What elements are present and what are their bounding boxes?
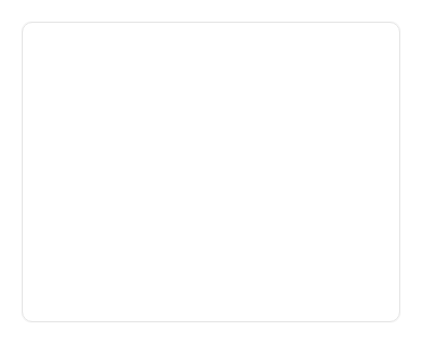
figure-card	[22, 22, 400, 322]
coordinate-plane-figure: -3 -2 -1 1 2 3 3 2 1 -1 -2 -3 y x	[0, 0, 422, 344]
